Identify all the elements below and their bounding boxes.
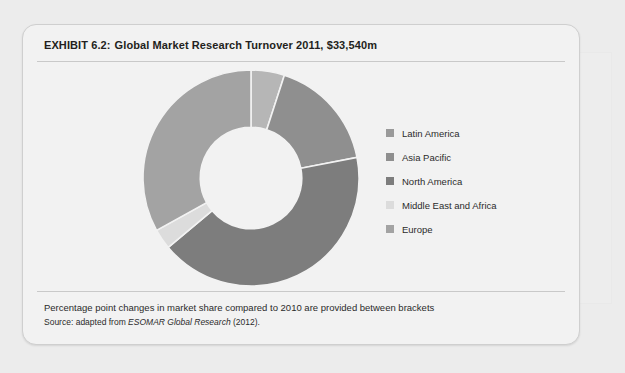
legend-item: North America: [386, 169, 566, 193]
legend-item-label: Asia Pacific: [402, 152, 451, 163]
legend-swatch-icon: [386, 201, 394, 209]
chart-area: [23, 61, 383, 291]
divider-bottom: [37, 291, 565, 292]
footnote-note: Percentage point changes in market share…: [44, 301, 544, 315]
source-suffix: (2012).: [231, 317, 260, 327]
legend-item: Asia Pacific: [386, 145, 566, 169]
legend-swatch-icon: [386, 225, 394, 233]
legend-item: Latin America: [386, 121, 566, 145]
donut-slice: [267, 75, 357, 168]
exhibit-title-text: Global Market Research Turnover 2011, $3…: [115, 39, 377, 51]
legend-item-label: Middle East and Africa: [402, 200, 497, 211]
legend-swatch-icon: [386, 177, 394, 185]
footnotes: Percentage point changes in market share…: [44, 301, 544, 328]
legend-item: Middle East and Africa: [386, 193, 566, 217]
legend-swatch-icon: [386, 129, 394, 137]
legend-item-label: North America: [402, 176, 462, 187]
exhibit-card: EXHIBIT 6.2:Global Market Research Turno…: [22, 24, 580, 345]
legend-item-label: Europe: [402, 224, 433, 235]
source-publication: ESOMAR Global Research: [128, 317, 231, 327]
exhibit-label: EXHIBIT 6.2:: [44, 39, 111, 51]
legend-item-label: Latin America: [402, 128, 460, 139]
donut-slice: [143, 70, 251, 230]
chart-legend: Latin AmericaAsia PacificNorth AmericaMi…: [386, 121, 566, 241]
footnote-source: Source: adapted from ESOMAR Global Resea…: [44, 316, 544, 328]
legend-item: Europe: [386, 217, 566, 241]
exhibit-title: EXHIBIT 6.2:Global Market Research Turno…: [44, 39, 377, 51]
donut-chart: [141, 68, 361, 288]
legend-swatch-icon: [386, 153, 394, 161]
source-prefix: Source: adapted from: [44, 317, 128, 327]
